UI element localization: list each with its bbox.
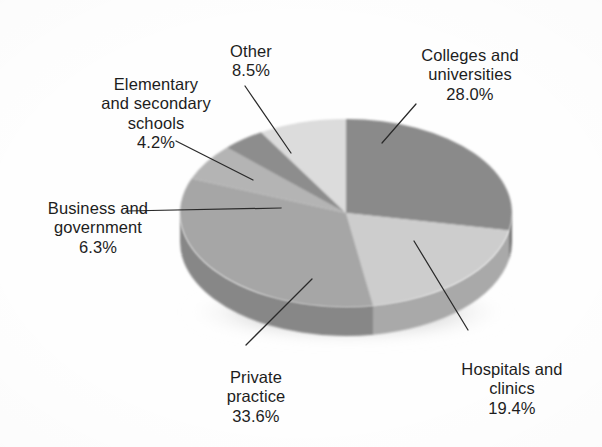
slice-label-hospitals-name: Hospitals and clinics bbox=[461, 360, 562, 398]
slice-label-colleges-pct: 28.0% bbox=[390, 85, 550, 105]
slice-label-colleges-and-universities: Colleges and universities 28.0% bbox=[390, 26, 550, 124]
slice-label-private-name: Private practice bbox=[227, 368, 286, 406]
slice-label-business-pct: 6.3% bbox=[8, 238, 188, 258]
slice-label-private-pct: 33.6% bbox=[186, 407, 326, 427]
slice-label-private-practice: Private practice 33.6% bbox=[186, 348, 326, 446]
pie-slice-colleges-and-universities[interactable] bbox=[346, 119, 512, 231]
slice-label-hospitals-and-clinics: Hospitals and clinics 19.4% bbox=[432, 340, 592, 438]
slice-label-colleges-name: Colleges and universities bbox=[421, 46, 519, 84]
pie-chart-figure: Colleges and universities 28.0% Other 8.… bbox=[0, 0, 602, 447]
slice-label-elementary-name: Elementary and secondary schools bbox=[101, 75, 211, 132]
slice-label-elementary-pct: 4.2% bbox=[56, 133, 256, 153]
slice-label-business-name: Business and government bbox=[48, 199, 148, 237]
slice-label-hospitals-pct: 19.4% bbox=[432, 399, 592, 419]
slice-label-elementary-and-secondary-schools: Elementary and secondary schools 4.2% bbox=[56, 55, 256, 172]
slice-label-business-and-government: Business and government 6.3% bbox=[8, 179, 188, 277]
